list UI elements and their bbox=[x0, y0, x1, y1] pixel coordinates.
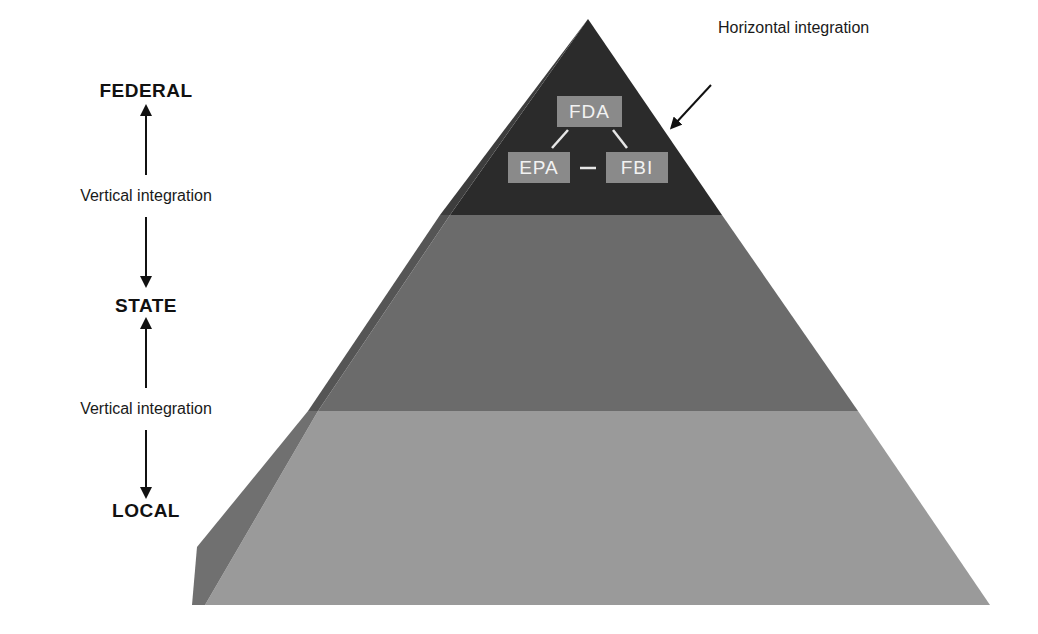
level-local-label: LOCAL bbox=[112, 500, 180, 522]
tier-state bbox=[318, 215, 858, 411]
agency-box-fda: FDA bbox=[557, 96, 622, 127]
vertical-integration-label-lower: Vertical integration bbox=[80, 400, 212, 418]
horizontal-integration-label: Horizontal integration bbox=[718, 19, 869, 37]
agency-box-fbi: FBI bbox=[606, 152, 668, 183]
level-state-label: STATE bbox=[115, 295, 177, 317]
governance-pyramid-diagram: FEDERAL Vertical integration STATE Verti… bbox=[0, 0, 1038, 634]
level-federal-label: FEDERAL bbox=[99, 80, 192, 102]
vertical-integration-label-upper: Vertical integration bbox=[80, 187, 212, 205]
horizontal-integration-arrow bbox=[674, 85, 711, 125]
tier-local bbox=[205, 411, 990, 605]
agency-box-epa: EPA bbox=[508, 152, 570, 183]
